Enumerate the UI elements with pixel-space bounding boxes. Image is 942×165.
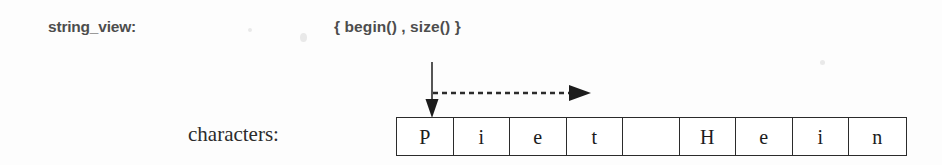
scan-speckle xyxy=(300,33,307,42)
string-view-value: { begin() , size() } xyxy=(334,18,461,36)
character-cell-row: P i e t H e i n xyxy=(396,117,907,156)
down-arrow-icon xyxy=(426,62,439,118)
character-cell: e xyxy=(736,118,793,155)
scan-speckle xyxy=(248,28,252,32)
character-cell: n xyxy=(849,118,906,155)
dashed-right-arrow-icon xyxy=(433,85,591,101)
character-cell: t xyxy=(567,118,624,155)
character-cell xyxy=(623,118,680,155)
character-cell: e xyxy=(510,118,567,155)
character-cell: H xyxy=(680,118,737,155)
string-view-label: string_view: xyxy=(48,18,136,36)
string-view-diagram: string_view: { begin() , size() } charac… xyxy=(0,0,942,165)
character-cell: i xyxy=(793,118,850,155)
characters-label: characters: xyxy=(188,122,279,147)
scan-speckle xyxy=(820,60,825,65)
character-cell: i xyxy=(454,118,511,155)
character-cell: P xyxy=(397,118,454,155)
